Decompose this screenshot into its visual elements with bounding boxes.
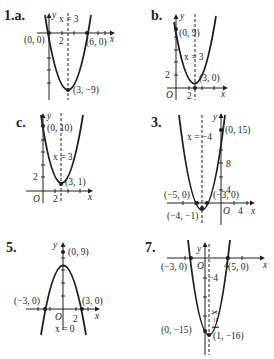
graph-7: 7. y x (−3, 0) (5, 0) (0, −15) (1, −16) … <box>137 240 274 359</box>
vertex-label: (−4, −1) <box>167 211 198 222</box>
x-tick-label: 2 <box>53 194 58 204</box>
point-label: (6, 0) <box>86 37 107 48</box>
point-label: (0, −15) <box>161 325 192 336</box>
graph-1c: c. y x (0, 10) x = 3 (3, 1) 2 2 O <box>0 115 137 235</box>
vertex-label: (3, 1) <box>65 177 86 188</box>
symmetry-label: x = 3 <box>184 52 204 62</box>
parabola-plot: y x (0, 9) (−3, 0) (3, 0) O 2 x = 0 <box>0 240 137 359</box>
x-axis-label: x <box>94 311 100 321</box>
x-tick-label: 2 <box>73 314 78 324</box>
vertex-label: (3, −9) <box>73 85 99 96</box>
parabola-plot: y x x = 3 (0, 0) (6, 0) (3, −9) 2 <box>0 0 137 115</box>
symmetry-label: x = −4 <box>187 132 212 142</box>
point-label: (−3, 0) <box>14 296 40 307</box>
x-axis-label: x <box>262 260 268 270</box>
y-axis-label: y <box>196 244 202 254</box>
origin-label: O <box>33 194 40 204</box>
y-axis-label: y <box>179 11 185 21</box>
point-label: (0, 15) <box>225 125 250 136</box>
graph-3: 3. y x (0, 15) x = −4 8 4 (−5, 0) (−3, 0… <box>137 115 274 235</box>
y-tick-label: −4 <box>208 273 218 283</box>
point-label: (0, 10) <box>47 123 72 134</box>
graph-1b: b. y x (0, 9) (3, 0) x = 3 2 2 O <box>137 0 274 115</box>
x-tick-label: 4 <box>238 206 243 216</box>
y-axis-label: y <box>212 112 218 122</box>
x-axis-label: x <box>87 192 93 202</box>
y-axis-label: y <box>46 111 52 121</box>
point-label: (5, 0) <box>228 262 249 273</box>
graph-5: 5. y x (0, 9) (−3, 0) (3, 0) O 2 x = 0 <box>0 240 137 359</box>
x-tick-label: 2 <box>187 91 192 101</box>
point-label: (−5, 0) <box>164 190 190 201</box>
symmetry-label: x = 1 <box>210 310 220 330</box>
vertex-label: (1, −16) <box>213 331 244 342</box>
origin-label: O <box>197 261 204 271</box>
origin-label: O <box>166 90 173 100</box>
y-tick-label: 2 <box>165 70 170 80</box>
parabola-plot: y x (0, 9) (3, 0) x = 3 2 2 O <box>137 0 274 115</box>
origin-label: O <box>223 206 230 216</box>
x-axis-label: x <box>109 34 115 44</box>
y-tick-label: 2 <box>33 172 38 182</box>
x-axis-label: x <box>250 206 256 216</box>
y-tick-label: 8 <box>226 159 231 169</box>
vertex-label: (3, 0) <box>199 73 220 84</box>
point-label: (0, 0) <box>24 35 45 46</box>
symmetry-label: x = 0 <box>55 324 75 334</box>
x-axis-label: x <box>220 89 226 99</box>
symmetry-label: x = 3 <box>59 14 79 24</box>
point-label: (−3, 0) <box>213 190 239 201</box>
point-label: (0, 9) <box>179 28 200 39</box>
y-axis-label: y <box>51 10 57 20</box>
vertex-label: (0, 9) <box>68 247 89 258</box>
parabola-plot: y x (−3, 0) (5, 0) (0, −15) (1, −16) O 4… <box>137 240 274 359</box>
graph-1a: 1.a. y x x = 3 (0, 0) (6, 0) (3, −9) 2 <box>0 0 137 115</box>
symmetry-label: x = 3 <box>53 152 73 162</box>
origin-label: O <box>55 312 62 322</box>
parabola-plot: y x (0, 15) x = −4 8 4 (−5, 0) (−3, 0) (… <box>137 115 274 235</box>
point-label: (3, 0) <box>82 296 103 307</box>
y-axis-label: y <box>52 240 58 250</box>
point-label: (−3, 0) <box>161 262 187 273</box>
x-tick-label: 4 <box>224 260 229 270</box>
parabola-plot: y x (0, 10) x = 3 (3, 1) 2 2 O <box>0 115 137 235</box>
x-tick-label: 2 <box>59 36 64 46</box>
